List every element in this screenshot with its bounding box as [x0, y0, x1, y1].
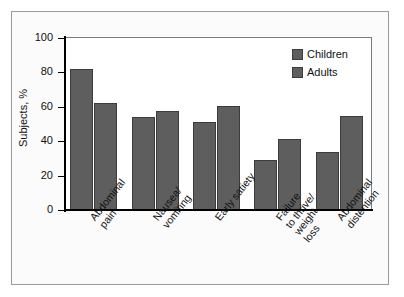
legend-item-adults: Adults [292, 65, 348, 80]
y-tick-label: 60 [41, 101, 53, 112]
y-axis-line [64, 36, 66, 212]
y-tick-label: 80 [41, 66, 53, 77]
y-tick [58, 38, 65, 39]
y-tick [58, 141, 65, 142]
bar-children-1 [132, 117, 155, 210]
plot-top-rule [65, 37, 372, 38]
y-tick-label: 100 [35, 32, 53, 43]
figure: 020406080100 Subjects, % Abdominal painN… [0, 0, 404, 297]
y-tick [58, 176, 65, 177]
legend-label-adults: Adults [307, 67, 338, 78]
legend: Children Adults [292, 47, 348, 83]
legend-swatch-children [292, 49, 303, 60]
legend-swatch-adults [292, 67, 303, 78]
bar-children-0 [70, 69, 93, 210]
y-tick [58, 210, 65, 211]
legend-label-children: Children [307, 49, 348, 60]
y-tick-label: 40 [41, 135, 53, 146]
y-tick [58, 107, 65, 108]
y-tick-label: 20 [41, 170, 53, 181]
y-axis-title: Subjects, % [17, 78, 29, 158]
y-tick-label: 0 [47, 204, 53, 215]
bar-children-2 [193, 122, 216, 210]
y-tick [58, 72, 65, 73]
legend-item-children: Children [292, 47, 348, 62]
bar-children-3 [254, 160, 277, 210]
